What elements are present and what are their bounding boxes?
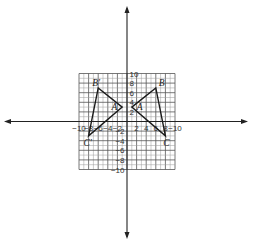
y-tick-label: −4: [115, 137, 125, 146]
y-tick-label: −6: [115, 146, 125, 155]
y-tick-label: −10: [111, 166, 125, 175]
y-tick-label: −2: [115, 127, 125, 136]
vertex-label: A: [110, 102, 117, 112]
x-tick-label: −10: [168, 124, 182, 133]
vertex-label: B: [159, 78, 165, 88]
axes: [4, 6, 248, 239]
y-tick-label: 8: [130, 79, 135, 88]
x-tick-label: 4: [144, 124, 149, 133]
vertex-label: C: [163, 138, 170, 148]
y-tick-label: 6: [130, 89, 135, 98]
x-tick-label: 2: [134, 124, 139, 133]
vertex-label: B′: [92, 78, 101, 88]
coordinate-plane: −10−8−6−4−22468−10 108642−2−4−6−8−10 ABC…: [0, 0, 253, 245]
y-tick-label: 10: [130, 70, 139, 79]
y-axis-up-arrow-icon: [125, 6, 130, 13]
vertex-label: A: [136, 102, 143, 112]
x-axis-right-arrow-icon: [241, 119, 248, 124]
y-axis-down-arrow-icon: [125, 232, 130, 239]
y-tick-label: −8: [115, 156, 125, 165]
x-axis-left-arrow-icon: [4, 119, 11, 124]
x-tick-label: −4: [103, 124, 113, 133]
vertex-label: C′: [83, 138, 92, 148]
